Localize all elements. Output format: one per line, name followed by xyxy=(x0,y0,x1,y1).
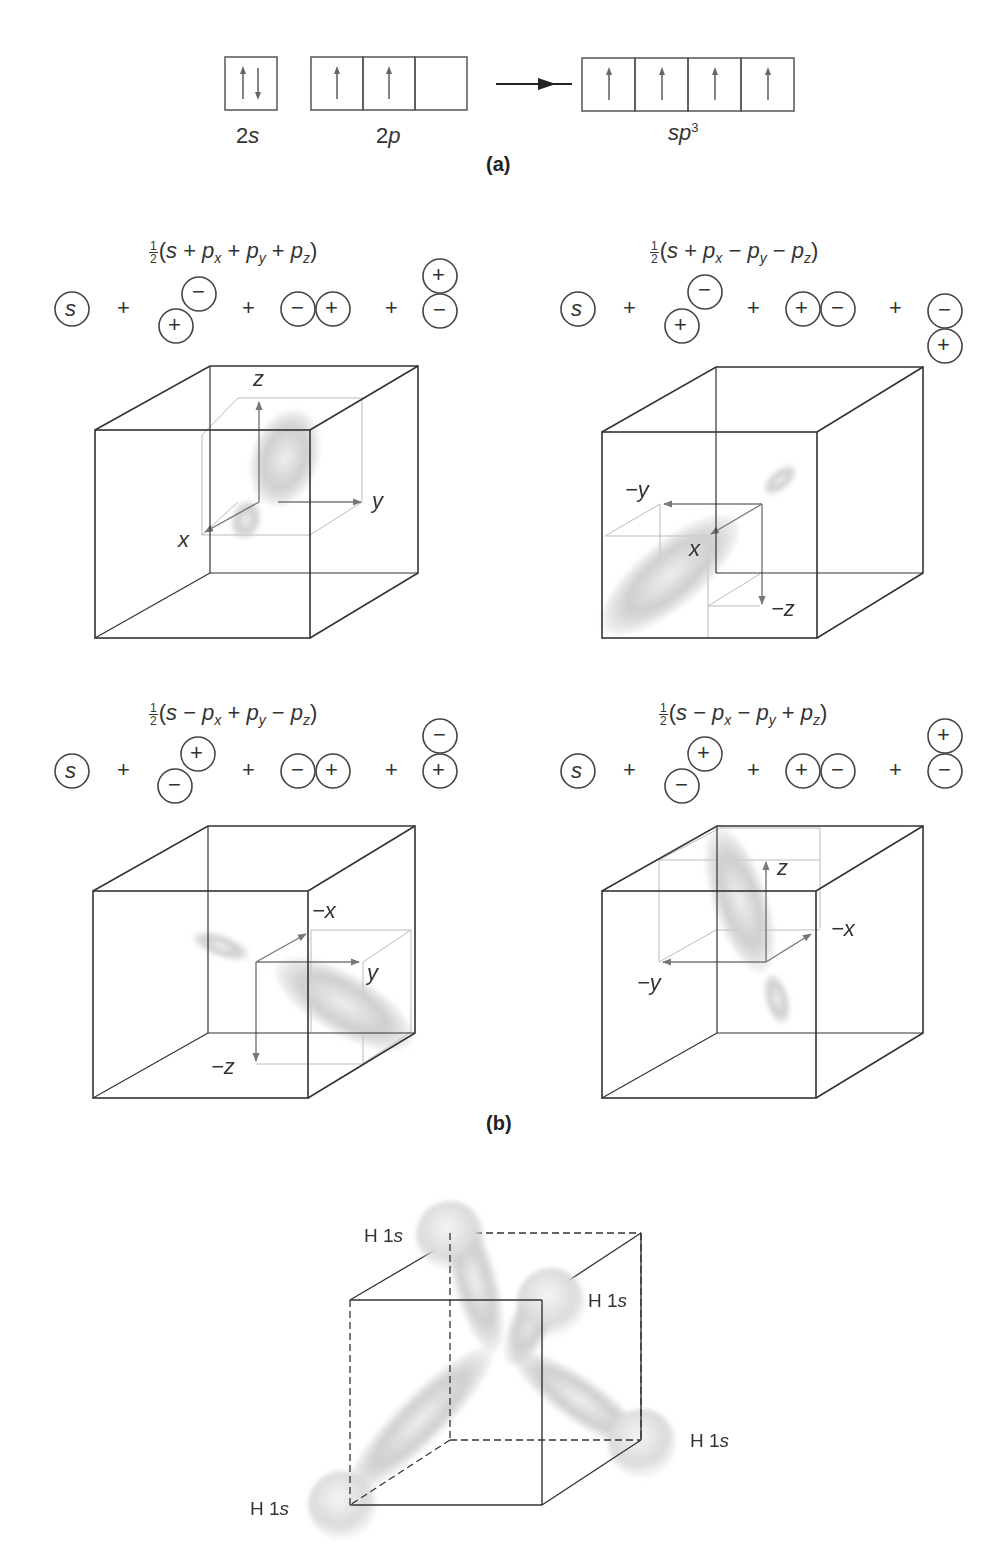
h1s-label-right-upper: H 1s xyxy=(588,1290,627,1312)
h1s-label-right-lower: H 1s xyxy=(690,1430,729,1452)
h1s-label-bottom-left: H 1s xyxy=(250,1498,289,1520)
h1s-label-top: H 1s xyxy=(364,1225,403,1247)
tetrahedral-bonding-diagram xyxy=(0,0,1008,1549)
